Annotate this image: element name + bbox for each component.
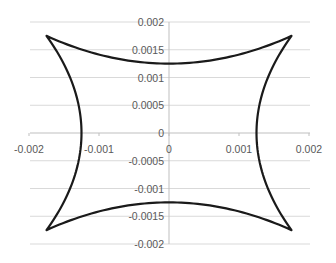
y-tick-label: 0.0005: [132, 99, 164, 111]
y-tick-label: -0.0015: [128, 210, 164, 222]
y-tick-label: 0: [158, 127, 164, 139]
x-tick-label: 0: [166, 143, 172, 155]
x-tick-label: -0.002: [14, 143, 44, 155]
y-tick-label: -0.0005: [128, 155, 164, 167]
chart-plot: 0.0020.00150.0010.00050-0.0005-0.001-0.0…: [0, 0, 336, 263]
gridlines: [30, 22, 310, 244]
x-axis-tick-labels: -0.002-0.00100.0010.002: [14, 143, 322, 155]
x-tick-label: -0.001: [84, 143, 114, 155]
x-tick-label: 0.001: [226, 143, 252, 155]
y-tick-label: 0.001: [138, 72, 164, 84]
y-tick-label: -0.002: [134, 238, 164, 250]
y-tick-label: -0.001: [134, 183, 164, 195]
x-tick-label: 0.002: [296, 143, 322, 155]
y-tick-label: 0.0015: [132, 44, 164, 56]
y-tick-label: 0.002: [138, 16, 164, 28]
